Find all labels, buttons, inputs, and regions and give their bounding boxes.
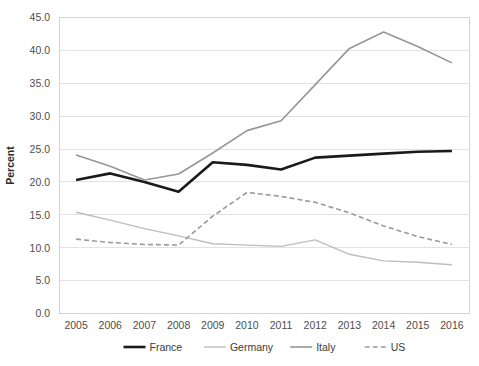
plot-frame-group — [59, 18, 469, 314]
x-axis-tick-label: 2010 — [235, 319, 259, 331]
x-axis-tick-label: 2012 — [304, 319, 328, 331]
series-line-italy — [76, 32, 452, 180]
y-axis-tick-label: 40.0 — [30, 44, 51, 56]
y-axis-tick-label: 25.0 — [30, 143, 51, 155]
legend-item-us[interactable]: US — [365, 341, 406, 353]
legend-label: Italy — [316, 341, 336, 353]
gridlines-group — [59, 18, 469, 281]
x-axis-tick-label: 2006 — [99, 319, 123, 331]
legend-label: US — [391, 341, 406, 353]
legend-item-france[interactable]: France — [124, 341, 183, 353]
x-axis-tick-label: 2015 — [406, 319, 430, 331]
legend-item-germany[interactable]: Germany — [204, 341, 274, 353]
y-axis-tick-label: 35.0 — [30, 77, 51, 89]
y-axis-tick-label: 10.0 — [30, 242, 51, 254]
legend-group: FranceGermanyItalyUS — [124, 341, 406, 353]
plot-area-frame — [59, 18, 469, 314]
x-axis-tick-label: 2013 — [338, 319, 362, 331]
line-chart: 0.05.010.015.020.025.030.035.040.045.0 P… — [0, 0, 479, 366]
legend-label: Germany — [230, 341, 274, 353]
y-axis-tick-label: 0.0 — [35, 307, 50, 319]
series-line-germany — [76, 212, 452, 265]
y-axis-tick-label: 15.0 — [30, 209, 51, 221]
series-group — [76, 32, 452, 265]
y-axis-title: Percent — [4, 146, 16, 185]
x-axis-tick-label: 2011 — [270, 319, 293, 331]
y-axis-tick-label: 20.0 — [30, 176, 51, 188]
x-axis-tick-label: 2007 — [133, 319, 157, 331]
chart-canvas: 0.05.010.015.020.025.030.035.040.045.0 P… — [0, 0, 479, 366]
x-axis-tick-label: 2016 — [440, 319, 464, 331]
legend-item-italy[interactable]: Italy — [290, 341, 336, 353]
x-axis-tick-label: 2008 — [167, 319, 191, 331]
y-axis-tick-label: 30.0 — [30, 110, 51, 122]
y-axis-tick-label: 45.0 — [30, 11, 51, 23]
x-axis-tick-label: 2009 — [201, 319, 225, 331]
x-axis-tick-labels: 2005200620072008200920102011201220132014… — [64, 319, 463, 331]
x-axis-tick-label: 2014 — [372, 319, 396, 331]
y-axis-title-group: Percent — [4, 146, 16, 185]
legend-label: France — [150, 341, 183, 353]
x-axis-tick-label: 2005 — [64, 319, 88, 331]
series-line-france — [76, 151, 452, 192]
y-axis-tick-label: 5.0 — [35, 274, 50, 286]
series-line-us — [76, 192, 452, 245]
y-axis-tick-labels: 0.05.010.015.020.025.030.035.040.045.0 — [30, 11, 51, 319]
